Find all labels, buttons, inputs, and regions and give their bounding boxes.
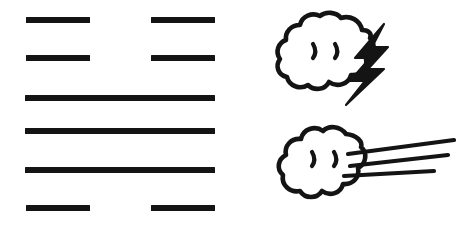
hexagram-line-3	[0, 126, 240, 136]
eye-left	[312, 152, 314, 166]
hexagram-line-5	[0, 53, 240, 63]
thunder-cloud-glyph	[240, 6, 472, 110]
hexagram-line-segment	[151, 17, 215, 23]
hexagram-line-2	[0, 165, 240, 175]
hexagram	[0, 0, 240, 233]
hexagram-line-segment	[25, 95, 215, 101]
hexagram-line-1	[0, 203, 240, 213]
hexagram-line-segment	[25, 128, 215, 134]
eye-right	[334, 152, 336, 166]
hexagram-line-6	[0, 15, 240, 25]
hexagram-line-segment	[26, 205, 90, 211]
hexagram-line-segment	[25, 167, 215, 173]
hexagram-line-segment	[26, 55, 90, 61]
thunder-cloud-icon	[240, 6, 472, 110]
eye-right	[335, 44, 337, 58]
figure-canvas	[0, 0, 472, 233]
hexagram-line-segment	[151, 205, 215, 211]
hexagram-line-segment	[151, 55, 215, 61]
hexagram-line-segment	[26, 17, 90, 23]
lightning-bolt	[346, 24, 388, 105]
eye-left	[313, 44, 315, 58]
wind-cloud-glyph	[240, 118, 472, 214]
wind-cloud-icon	[240, 118, 472, 214]
hexagram-line-4	[0, 93, 240, 103]
icon-column	[240, 0, 472, 233]
